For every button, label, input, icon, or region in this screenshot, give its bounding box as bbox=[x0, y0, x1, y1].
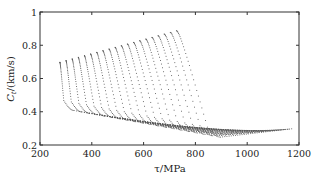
data-points bbox=[59, 30, 292, 137]
y-tick-label: 0.6 bbox=[22, 73, 37, 84]
y-axis: 0.20.40.60.81 bbox=[22, 7, 299, 151]
x-axis: 20040060080010001200 bbox=[31, 12, 311, 159]
y-axis-label: Ct/(km/s) bbox=[5, 56, 18, 102]
y-tick-label: 0.8 bbox=[22, 40, 37, 51]
y-tick-label: 0.2 bbox=[22, 140, 37, 151]
x-tick-label: 1000 bbox=[235, 148, 259, 159]
y-tick-label: 1 bbox=[31, 7, 37, 18]
x-axis-label: τ/MPa bbox=[154, 163, 185, 174]
x-tick-label: 600 bbox=[135, 148, 153, 159]
x-tick-label: 1200 bbox=[287, 148, 311, 159]
y-tick-label: 0.4 bbox=[22, 106, 37, 117]
x-tick-label: 400 bbox=[83, 148, 101, 159]
chart-canvas: 20040060080010001200 0.20.40.60.81 τ/MPa… bbox=[0, 0, 315, 179]
x-tick-label: 800 bbox=[186, 148, 204, 159]
